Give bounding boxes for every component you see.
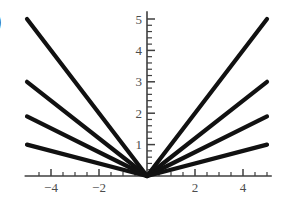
- x-tick-label: 4: [240, 180, 247, 195]
- axis-tick-labels: −4−22412345: [44, 12, 247, 196]
- y-tick-label: 5: [136, 12, 143, 27]
- y-tick-label: 1: [136, 137, 143, 152]
- figure-panel: ) −4−22412345: [0, 0, 288, 203]
- y-tick-label: 2: [136, 106, 143, 121]
- y-tick-label: 3: [136, 74, 143, 89]
- absolute-value-plot: −4−22412345: [0, 0, 288, 203]
- y-tick-label: 4: [136, 43, 143, 58]
- x-tick-label: −2: [92, 180, 106, 195]
- x-tick-label: 2: [192, 180, 199, 195]
- x-tick-label: −4: [44, 180, 58, 195]
